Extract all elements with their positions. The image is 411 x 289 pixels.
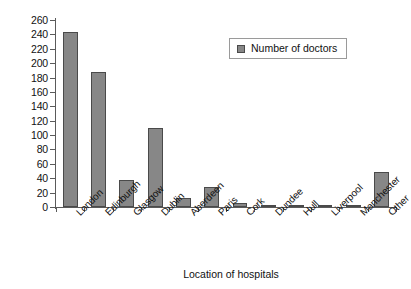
y-tick [50, 121, 55, 122]
y-tick-label: 40 [2, 173, 48, 183]
y-tick [50, 34, 55, 35]
y-tick [50, 149, 55, 150]
y-tick-label: 240 [2, 29, 48, 39]
y-tick-label: 0 [2, 202, 48, 212]
y-tick-label: 60 [2, 159, 48, 169]
bar-slot [141, 20, 169, 207]
bar-slot [169, 20, 197, 207]
bar-slot [56, 20, 84, 207]
x-axis-title: Location of hospitals [0, 268, 406, 280]
y-tick-label: 160 [2, 87, 48, 97]
y-tick-label: 220 [2, 44, 48, 54]
y-tick-label: 20 [2, 188, 48, 198]
legend-label: Number of doctors [251, 43, 337, 54]
y-tick [50, 78, 55, 79]
bar-slot [84, 20, 112, 207]
bar-slot [198, 20, 226, 207]
x-axis-title-text: Location of hospitals [127, 268, 279, 280]
y-tick-label: 100 [2, 130, 48, 140]
y-tick-label: 80 [2, 144, 48, 154]
legend: Number of doctors [229, 38, 347, 59]
y-tick [50, 20, 55, 21]
y-tick [50, 106, 55, 107]
y-tick-label: 180 [2, 73, 48, 83]
legend-swatch-icon [237, 45, 245, 53]
y-tick-label: 260 [2, 15, 48, 25]
bar-edinburgh [91, 72, 106, 207]
y-tick-label: 120 [2, 116, 48, 126]
y-tick [50, 164, 55, 165]
y-tick [50, 135, 55, 136]
y-tick [50, 193, 55, 194]
y-tick [50, 178, 55, 179]
y-tick [50, 49, 55, 50]
bar-slot [113, 20, 141, 207]
y-tick [50, 92, 55, 93]
y-tick [50, 63, 55, 64]
y-tick-label: 200 [2, 58, 48, 68]
y-tick [50, 207, 55, 208]
x-axis-category-labels: LondonEdinburghGlasgowDublinAberdeenPari… [56, 208, 396, 264]
bar-london [63, 32, 78, 207]
y-tick-label: 140 [2, 101, 48, 111]
